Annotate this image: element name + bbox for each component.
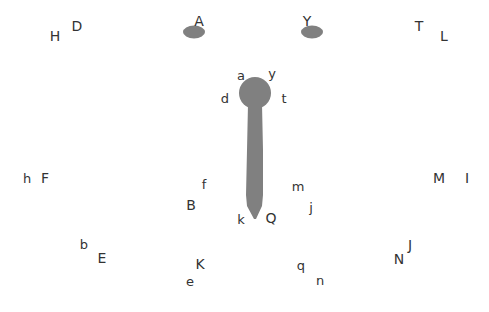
point-label-lower-q: q — [297, 259, 305, 272]
point-label-lower-b: b — [80, 238, 88, 251]
point-label-lower-e: e — [186, 275, 194, 288]
point-label-upper-l: L — [440, 29, 448, 43]
point-label-upper-k: K — [195, 257, 204, 271]
point-label-lower-a: a — [237, 69, 245, 82]
point-label-lower-n: n — [316, 274, 324, 287]
point-label-upper-m: M — [433, 171, 445, 185]
point-label-lower-h: h — [23, 172, 31, 185]
point-label-upper-y: Y — [303, 14, 312, 28]
point-label-upper-f: F — [41, 171, 49, 185]
point-label-upper-h: H — [50, 29, 61, 43]
point-label-upper-q: Q — [265, 211, 276, 225]
point-label-upper-t: T — [415, 19, 424, 33]
point-label-lower-y: y — [268, 67, 276, 80]
point-label-upper-a: A — [194, 14, 204, 28]
point-label-upper-n: N — [394, 252, 404, 266]
point-label-upper-b: B — [186, 198, 196, 212]
diagram-canvas: HDAYTLaydthFfBmjMIkQbEKeqnNJ — [0, 0, 489, 312]
point-label-upper-j: J — [408, 238, 412, 252]
tapered-stick-shape — [246, 104, 263, 219]
point-label-upper-i: I — [465, 171, 469, 185]
point-label-lower-j: j — [309, 201, 313, 214]
diagram-shapes — [0, 0, 489, 312]
point-label-lower-f: f — [202, 178, 207, 191]
point-label-lower-t: t — [281, 92, 286, 105]
point-label-lower-k: k — [237, 213, 245, 226]
point-label-lower-m: m — [292, 180, 305, 193]
point-label-upper-d: D — [72, 19, 83, 33]
point-label-lower-d: d — [221, 92, 229, 105]
point-label-upper-e: E — [98, 251, 107, 265]
